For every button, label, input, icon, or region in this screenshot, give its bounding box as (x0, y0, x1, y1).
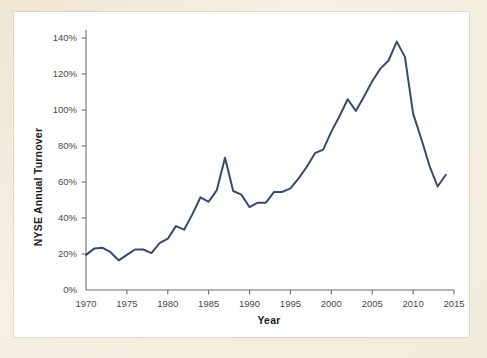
x-axis-tick-label: 2005 (362, 298, 383, 309)
y-axis-tick-label: 0% (63, 284, 77, 295)
y-axis-tick-label: 80% (58, 140, 78, 151)
series-group (86, 42, 446, 261)
x-axis-title: Year (258, 314, 281, 326)
x-axis-tick-label: 2000 (321, 298, 342, 309)
x-axis: 1970197519801985199019952000200520102015 (75, 290, 464, 309)
y-axis-title: NYSE Annual Turnover (32, 128, 44, 246)
x-axis-tick-label: 1985 (198, 298, 219, 309)
y-axis: 0%20%40%60%80%100%120%140% (53, 30, 86, 295)
x-axis-tick-label: 1975 (116, 298, 137, 309)
line-chart: 0%20%40%60%80%100%120%140% 1970197519801… (14, 12, 469, 337)
x-axis-tick-label: 2015 (443, 298, 464, 309)
y-axis-tick-label: 100% (53, 104, 78, 115)
y-axis-tick-label: 120% (53, 68, 78, 79)
y-axis-tick-label: 40% (58, 212, 78, 223)
x-axis-tick-label: 1990 (239, 298, 260, 309)
data-series-line (86, 42, 446, 261)
chart-canvas: 0%20%40%60%80%100%120%140% 1970197519801… (14, 12, 469, 337)
x-axis-tick-label: 2010 (403, 298, 424, 309)
chart-card: 0%20%40%60%80%100%120%140% 1970197519801… (14, 12, 469, 337)
page-background: 0%20%40%60%80%100%120%140% 1970197519801… (0, 0, 487, 358)
x-axis-tick-label: 1995 (280, 298, 301, 309)
y-axis-tick-label: 60% (58, 176, 78, 187)
x-axis-tick-label: 1980 (157, 298, 178, 309)
y-axis-tick-label: 140% (53, 32, 78, 43)
x-axis-tick-label: 1970 (75, 298, 96, 309)
y-axis-tick-label: 20% (58, 248, 78, 259)
